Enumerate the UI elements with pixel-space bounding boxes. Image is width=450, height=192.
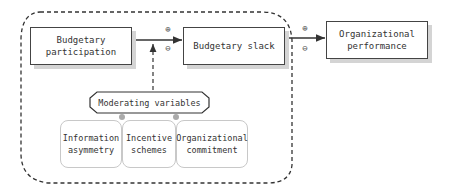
plus-sign-icon: ⊕ [300,23,310,33]
moderating-variables-label: Moderating variables [98,98,200,108]
node-label: schemes [126,144,172,156]
moderator-incentive-schemes: Incentive schemes [122,120,176,168]
node-budgetary-participation: Budgetary participation [30,27,132,65]
node-budgetary-slack: Budgetary slack [183,27,285,65]
node-label: performance [339,40,415,52]
node-label: Budgetary [46,34,116,46]
node-label: Organizational [339,28,415,40]
minus-sign-icon: ⊖ [163,43,173,53]
node-label: asymmetry [63,144,119,156]
minus-sign-icon: ⊖ [300,43,310,53]
node-label: participation [46,46,116,58]
node-label: Incentive [126,132,172,144]
node-label: Information [63,132,119,144]
moderator-organizational-commitment: Organizational commitment [176,120,248,168]
moderator-information-asymmetry: Information asymmetry [60,120,122,168]
moderating-variables-label-wrap: Moderating variables [90,92,209,113]
node-label: Organizational [176,132,248,144]
node-label: Budgetary slack [193,40,274,52]
plus-sign-icon: ⊕ [163,24,173,34]
node-organizational-performance: Organizational performance [326,21,428,59]
node-label: commitment [176,144,248,156]
